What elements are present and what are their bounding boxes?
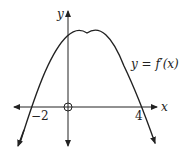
y-axis-label: y xyxy=(57,8,64,20)
function-label: y = f′(x) xyxy=(131,58,179,70)
derivative-curve xyxy=(20,30,155,143)
derivative-curve-left-tail xyxy=(18,130,24,146)
derivative-graph xyxy=(0,0,190,160)
x-tick-neg2: −2 xyxy=(31,110,49,122)
x-tick-4: 4 xyxy=(135,110,143,122)
x-axis-label: x xyxy=(161,101,168,113)
